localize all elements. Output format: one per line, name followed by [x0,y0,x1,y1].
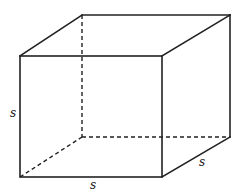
edge-top-left-depth [20,15,82,56]
label-left-side: s [10,106,16,120]
hidden-edge-bottom-left-depth [20,137,82,177]
cube-diagram: s s s [0,0,241,195]
label-bottom-side: s [90,178,96,192]
front-face [20,56,162,177]
edge-top-right-depth [162,15,230,56]
label-right-depth: s [199,155,205,169]
edge-bottom-right-depth [162,137,230,177]
